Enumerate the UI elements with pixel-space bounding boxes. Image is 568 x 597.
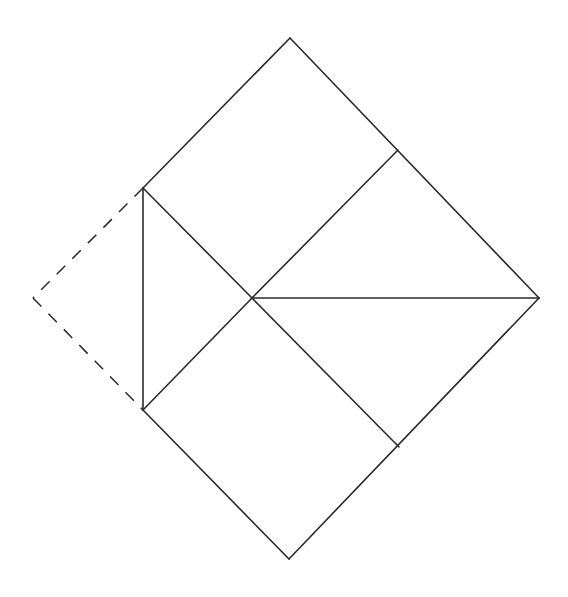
geometry-diagram — [0, 0, 568, 597]
diag-center-to-lower-right-mid — [252, 298, 399, 447]
edge-bottom-to-lower-left — [143, 410, 289, 559]
dashed-upper-left-to-apex — [33, 188, 143, 298]
solid-lines — [143, 38, 539, 559]
dashed-lines — [33, 188, 143, 410]
diag-upper-left-to-center — [143, 188, 252, 298]
dashed-apex-to-lower-left — [33, 298, 143, 410]
edge-top-to-right — [290, 38, 539, 298]
edge-right-to-bottom — [289, 298, 539, 559]
diag-center-to-upper-right-mid — [252, 150, 398, 298]
diag-lower-left-to-center — [143, 298, 252, 410]
edge-upper-left-to-top — [143, 38, 290, 188]
